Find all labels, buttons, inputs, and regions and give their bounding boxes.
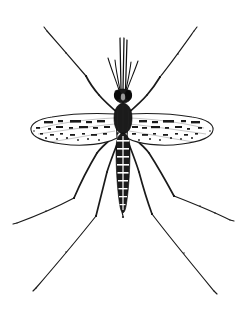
mosquito-figure [0, 0, 238, 310]
thorax [114, 103, 132, 134]
head [114, 89, 132, 103]
mosquito-illustration [0, 0, 238, 310]
left-wing [31, 114, 117, 146]
right-wing [127, 114, 213, 146]
